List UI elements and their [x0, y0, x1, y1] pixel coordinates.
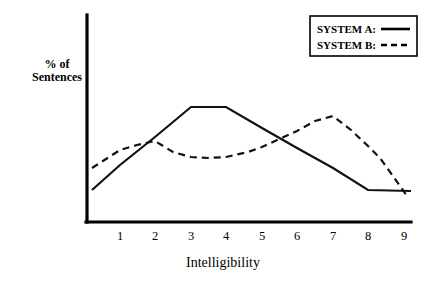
x-tick-label-1: 1: [117, 229, 123, 243]
line-chart: 1 2 3 4 5 6 7 8 9 Intelligibility % of S…: [0, 0, 431, 283]
x-tick-label-2: 2: [152, 229, 158, 243]
x-tick-label-9: 9: [401, 229, 407, 243]
series-line-system-a: [92, 107, 411, 191]
x-tick-label-7: 7: [330, 229, 336, 243]
x-tick-label-6: 6: [294, 229, 300, 243]
y-axis-label-line1: % of: [45, 57, 71, 71]
y-axis-label-line2: Sentences: [32, 70, 82, 84]
legend-label-system-b: SYSTEM B:: [317, 39, 376, 51]
x-tick-label-3: 3: [188, 229, 194, 243]
chart-figure: 1 2 3 4 5 6 7 8 9 Intelligibility % of S…: [0, 0, 431, 283]
x-tick-label-4: 4: [223, 229, 230, 243]
x-axis-title: Intelligibility: [186, 255, 260, 270]
x-tick-label-5: 5: [259, 229, 265, 243]
x-tick-label-8: 8: [365, 229, 371, 243]
legend-label-system-a: SYSTEM A:: [317, 23, 376, 35]
